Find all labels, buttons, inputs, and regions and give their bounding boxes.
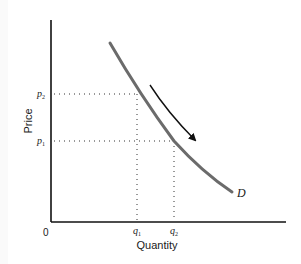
price-label-p2: p2 [36,88,45,100]
p2-sub: 2 [42,94,45,100]
origin-label: 0 [43,227,49,238]
movement-arrow [150,85,195,140]
demand-curve [110,43,232,192]
q1-sub: 1 [138,231,141,237]
x-axis-label: Quantity [137,239,178,251]
quantity-label-q1: q1 [133,225,141,237]
q2-sub: 2 [175,231,178,237]
curve-label: D [236,186,246,200]
y-axis-label: Price [22,108,34,133]
price-label-p1: p1 [36,135,45,147]
quantity-label-q2: q2 [170,225,178,237]
diagram-frame: 0 Quantity Price D p2 p1 q1 q2 [0,0,301,264]
demand-diagram: 0 Quantity Price D p2 p1 q1 q2 [0,0,301,264]
p1-sub: 1 [42,141,45,147]
